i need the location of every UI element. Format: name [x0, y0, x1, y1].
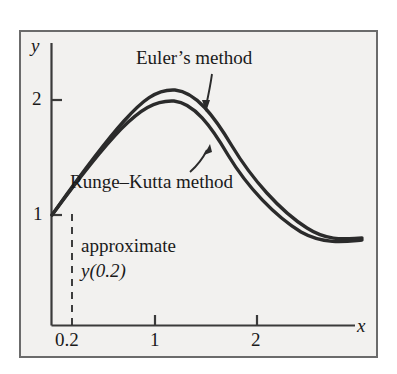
figure-container: y x 2 1 0.2 1 2 Euler’s method Runge–Kut…: [0, 0, 397, 374]
curve-euler: [52, 90, 362, 239]
x-tick-label-2: 2: [251, 330, 261, 349]
x-tick-label-1: 1: [150, 330, 160, 349]
runge-kutta-arrow: [190, 150, 207, 172]
y-axis-label: y: [31, 36, 39, 55]
approximate-label-line1: approximate: [81, 236, 176, 255]
approximate-label-line2: y(0.2): [81, 261, 126, 280]
y-tick-label-2: 2: [32, 89, 42, 108]
runge-kutta-arrowhead-icon: [204, 144, 212, 155]
euler-method-label: Euler’s method: [136, 48, 252, 67]
y-tick-label-1: 1: [33, 204, 43, 223]
runge-kutta-method-label: Runge–Kutta method: [70, 172, 233, 191]
x-tick-label-0-2: 0.2: [55, 330, 79, 349]
x-axis-label: x: [357, 316, 365, 335]
